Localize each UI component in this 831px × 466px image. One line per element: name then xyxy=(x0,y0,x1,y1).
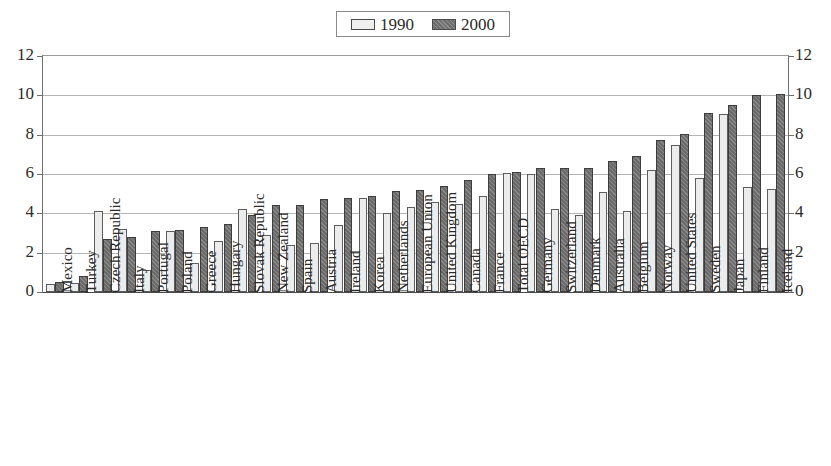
y-axis-label-left-12: 12 xyxy=(0,46,34,63)
category-label-denmark: Denmark xyxy=(588,237,603,293)
y-axis-label-right-6: 6 xyxy=(795,164,829,181)
category-label-japan: Japan xyxy=(732,259,747,293)
category-label-mexico: Mexico xyxy=(60,247,75,293)
category-label-united-kingdom: United Kingdom xyxy=(444,192,459,293)
y-axis-label-left-2: 2 xyxy=(0,243,34,260)
category-label-france: France xyxy=(492,252,507,293)
category-label-total-oecd: Total OECD xyxy=(516,218,531,293)
y-axis-label-left-10: 10 xyxy=(0,85,34,102)
y-tick-right-8 xyxy=(788,135,794,136)
category-label-greece: Greece xyxy=(204,251,219,293)
category-label-poland: Poland xyxy=(180,251,195,293)
category-axis-labels: MexicoTurkeyCzech RepublicItalyPortugalP… xyxy=(42,293,787,463)
y-axis-label-left-6: 6 xyxy=(0,164,34,181)
y-tick-right-6 xyxy=(788,174,794,175)
category-label-netherlands: Netherlands xyxy=(396,221,411,293)
category-label-switzerland: Switzerland xyxy=(564,221,579,293)
y-tick-right-4 xyxy=(788,213,794,214)
y-axis-label-right-8: 8 xyxy=(795,125,829,142)
category-label-turkey: Turkey xyxy=(84,250,99,293)
category-label-canada: Canada xyxy=(468,248,483,293)
category-label-new-zealand: New Zealand xyxy=(276,213,291,293)
y-axis-label-right-2: 2 xyxy=(795,243,829,260)
category-label-iceland: Iceland xyxy=(780,249,795,293)
y-axis-label-right-0: 0 xyxy=(795,282,829,299)
category-label-finland: Finland xyxy=(756,247,771,293)
y-axis-label-left-0: 0 xyxy=(0,282,34,299)
category-label-italy: Italy xyxy=(132,266,147,294)
category-label-slovak-republic: Slovak Republic xyxy=(252,193,267,293)
y-axis-label-right-12: 12 xyxy=(795,46,829,63)
category-label-sweden: Sweden xyxy=(708,246,723,294)
category-label-european-union: European Union xyxy=(420,194,435,293)
category-label-united-states: United States xyxy=(684,213,699,293)
category-label-belgium: Belgium xyxy=(636,241,651,293)
category-label-hungary: Hungary xyxy=(228,241,243,294)
category-label-korea: Korea xyxy=(372,256,387,293)
bar-1990-mexico[interactable] xyxy=(46,284,55,292)
y-tick-right-12 xyxy=(788,56,794,57)
category-label-norway: Norway xyxy=(660,245,675,293)
y-axis-label-right-4: 4 xyxy=(795,203,829,220)
category-label-portugal: Portugal xyxy=(156,242,171,293)
category-label-spain: Spain xyxy=(300,259,315,293)
y-axis-label-left-4: 4 xyxy=(0,203,34,220)
category-label-austria: Austria xyxy=(324,249,339,293)
category-label-germany: Germany xyxy=(540,237,555,293)
category-label-ireland: Ireland xyxy=(348,251,363,293)
y-tick-right-10 xyxy=(788,95,794,96)
y-axis-label-left-8: 8 xyxy=(0,125,34,142)
category-label-australia: Australia xyxy=(612,238,627,293)
y-axis-label-right-10: 10 xyxy=(795,85,829,102)
category-label-czech-republic: Czech Republic xyxy=(108,198,123,293)
bar-chart: MexicoTurkeyCzech RepublicItalyPortugalP… xyxy=(0,0,831,466)
